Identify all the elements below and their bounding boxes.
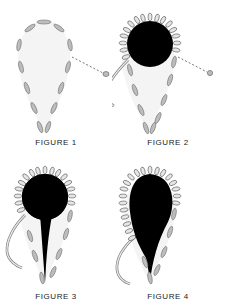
filled-circle [22,174,68,220]
figure-2: FIGURE 2 [112,0,224,154]
figure-4: FIGURE 4 [112,154,224,308]
figure-4-illustration [112,154,225,308]
filled-circle [127,21,173,67]
figure-2-illustration [112,0,225,154]
figure-caption: FIGURE 3 [0,292,112,301]
bead-icon [103,72,109,77]
dashed-thread-line [72,57,103,73]
figure-3: FIGURE 3 [0,154,112,308]
figure-1: FIGURE 1 [0,0,112,154]
figure-caption: FIGURE 4 [112,292,224,301]
figure-caption: FIGURE 2 [112,138,224,147]
bead-icon [207,70,212,75]
figure-caption: FIGURE 1 [0,138,112,147]
dashed-thread-line [178,57,207,72]
figure-3-illustration [0,154,112,308]
